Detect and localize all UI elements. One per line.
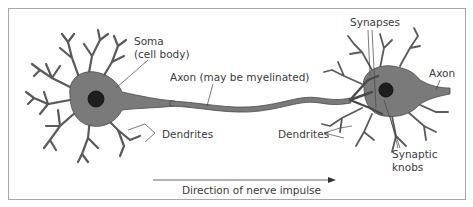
left-nucleus <box>88 91 104 107</box>
label-dendrites-right: Dendrites <box>278 128 329 141</box>
label-synaptic-line1: Synaptic <box>392 148 437 161</box>
label-soma-line1: Soma <box>134 35 190 48</box>
label-synapses: Synapses <box>350 16 400 29</box>
label-soma-line2: (cell body) <box>134 48 190 61</box>
label-axon-right: Axon <box>429 67 455 80</box>
label-direction: Direction of nerve impulse <box>182 184 321 197</box>
label-synaptic-line2: knobs <box>392 161 437 174</box>
right-nucleus <box>379 83 393 97</box>
left-soma <box>70 72 175 127</box>
neuron-diagram <box>0 0 473 207</box>
label-synaptic-knobs: Synaptic knobs <box>392 148 437 173</box>
label-soma: Soma (cell body) <box>134 35 190 60</box>
direction-arrow <box>153 177 336 183</box>
axon <box>170 97 351 112</box>
label-axon-myelinated: Axon (may be myelinated) <box>170 71 309 84</box>
right-neuron <box>322 28 450 152</box>
label-dendrites-left: Dendrites <box>162 128 213 141</box>
